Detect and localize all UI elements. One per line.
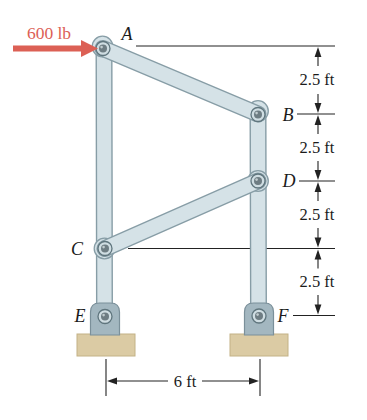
frame-diagram: 600 lb A B C D E F 2.5 ft 2.5 ft 2.5 ft …	[0, 0, 367, 420]
dim-label-bottom: 6 ft	[174, 372, 197, 391]
dim-label-right-0: 2.5 ft	[300, 70, 335, 89]
joint-label-a: A	[121, 24, 134, 44]
dim-label-right-1: 2.5 ft	[300, 138, 335, 157]
force-label: 600 lb	[27, 23, 71, 43]
member-ea	[104, 49, 105, 317]
force-600lb: 600 lb	[13, 23, 98, 57]
dim-label-right-3: 2.5 ft	[300, 272, 335, 291]
joint-label-f: F	[277, 306, 290, 326]
dim-label-right-2: 2.5 ft	[300, 205, 335, 224]
joint-label-b: B	[283, 105, 294, 125]
pin-c	[98, 242, 112, 256]
joint-label-e: E	[74, 306, 86, 326]
pin-f	[252, 309, 266, 323]
pin-d	[251, 174, 265, 188]
member-ab	[103, 49, 258, 115]
base-block-e	[77, 334, 135, 356]
diagram-canvas: 600 lb A B C D E F 2.5 ft 2.5 ft 2.5 ft …	[0, 0, 367, 420]
member-fb	[258, 112, 259, 316]
pin-e	[98, 310, 112, 324]
joint-label-c: C	[71, 239, 84, 259]
members	[92, 36, 268, 316]
force-arrow-shaft	[13, 46, 81, 52]
base-block-f	[230, 334, 288, 356]
member-cd	[105, 181, 258, 249]
pin-a	[96, 42, 110, 56]
joint-label-d: D	[282, 171, 296, 191]
pin-b	[251, 108, 265, 122]
